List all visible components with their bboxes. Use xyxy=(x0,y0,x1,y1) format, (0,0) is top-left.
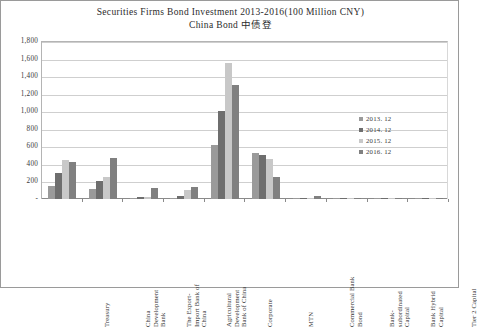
x-axis-category-label: MTN xyxy=(307,243,315,327)
bar[interactable] xyxy=(184,190,191,199)
legend-label: 2013. 12 xyxy=(366,115,391,122)
x-axis-tick xyxy=(448,199,449,202)
bar[interactable] xyxy=(62,160,69,199)
bar[interactable] xyxy=(314,196,321,199)
chart-title: Securities Firms Bond Investment 2013-20… xyxy=(1,6,460,19)
bar[interactable] xyxy=(69,162,76,199)
bar[interactable] xyxy=(252,153,259,199)
bar[interactable] xyxy=(395,198,402,199)
bar[interactable] xyxy=(211,145,218,199)
bar[interactable] xyxy=(48,186,55,199)
bar[interactable] xyxy=(300,198,307,199)
bar[interactable] xyxy=(388,198,395,199)
bar-group-bars xyxy=(246,42,287,199)
category-label-line: Bond xyxy=(355,243,363,327)
x-axis-category-label: Corporate xyxy=(266,243,274,327)
bar-group-bars xyxy=(164,42,205,199)
bar[interactable] xyxy=(340,198,347,199)
bar-group-bars xyxy=(286,42,327,199)
category-label-line: MTN xyxy=(307,243,315,327)
y-axis-tick-label: - xyxy=(35,195,38,203)
category-label-line: Corporate xyxy=(266,243,274,327)
bar-group xyxy=(123,42,164,199)
category-label-line: China xyxy=(144,243,152,327)
x-axis-category-label: The Export-Import Bank ofChina xyxy=(185,243,208,327)
bar[interactable] xyxy=(96,181,103,199)
bar[interactable] xyxy=(144,197,151,199)
category-label-line: Capital xyxy=(437,243,445,327)
legend-item[interactable]: 2016. 12 xyxy=(359,146,421,157)
category-label-line: The Export- xyxy=(185,243,193,327)
bar[interactable] xyxy=(415,198,422,199)
bar[interactable] xyxy=(293,198,300,199)
bar[interactable] xyxy=(273,177,280,199)
bar[interactable] xyxy=(137,197,144,199)
legend-swatch-icon xyxy=(359,117,363,121)
bar[interactable] xyxy=(177,196,184,200)
bar[interactable] xyxy=(55,173,62,199)
legend-swatch-icon xyxy=(359,128,363,132)
x-axis-category-labels: TreasuryChinaDevelopmentBankThe Export-I… xyxy=(41,201,448,287)
legend-label: 2014. 12 xyxy=(366,126,391,133)
bar-group-bars xyxy=(83,42,124,199)
x-axis-category-label: ChinaDevelopmentBank xyxy=(144,243,167,327)
x-axis-category-label: Tier 2 Capital xyxy=(470,243,477,327)
bar-group xyxy=(83,42,124,199)
bar[interactable] xyxy=(225,63,232,199)
bar[interactable] xyxy=(130,198,137,199)
bar[interactable] xyxy=(436,198,443,199)
x-axis-category-label: Bank-subordinatedCapital xyxy=(388,243,411,327)
bar[interactable] xyxy=(374,198,381,199)
bar[interactable] xyxy=(307,198,314,199)
bar[interactable] xyxy=(422,198,429,199)
bar-group-bars xyxy=(205,42,246,199)
bar[interactable] xyxy=(89,189,96,199)
legend-item[interactable]: 2015. 12 xyxy=(359,135,421,146)
category-label-line: Tier 2 Capital xyxy=(470,243,477,327)
bar[interactable] xyxy=(151,188,158,199)
y-axis-tick-label: 1,400 xyxy=(21,72,38,80)
bar[interactable] xyxy=(266,159,273,199)
bar[interactable] xyxy=(170,198,177,199)
category-label-line: Bank of China xyxy=(241,243,249,327)
x-axis-category-label: AgriculturalDevelopmentBank of China xyxy=(225,243,248,327)
category-label-line: Development xyxy=(152,243,160,327)
y-axis-tick-label: 200 xyxy=(27,177,38,185)
bar[interactable] xyxy=(218,111,225,199)
bar[interactable] xyxy=(110,158,117,199)
y-axis-tick-label: 1,800 xyxy=(21,37,38,45)
bar[interactable] xyxy=(347,198,354,199)
bar[interactable] xyxy=(333,198,340,199)
bar-group-bars xyxy=(123,42,164,199)
legend-item[interactable]: 2013. 12 xyxy=(359,113,421,124)
bar-group xyxy=(286,42,327,199)
chart-legend: 2013. 122014. 122015. 122016. 12 xyxy=(359,113,421,157)
category-label-line: China xyxy=(200,243,208,327)
category-label-line: Bank xyxy=(159,243,167,327)
category-label-line: Commercial Bank xyxy=(348,243,356,327)
bar[interactable] xyxy=(259,155,266,199)
bar[interactable] xyxy=(103,177,110,199)
bar[interactable] xyxy=(429,198,436,199)
bar[interactable] xyxy=(232,85,239,199)
legend-swatch-icon xyxy=(359,150,363,154)
legend-item[interactable]: 2014. 12 xyxy=(359,124,421,135)
bar[interactable] xyxy=(354,198,361,199)
y-axis-tick-label: 1,200 xyxy=(21,90,38,98)
bar-group xyxy=(42,42,83,199)
category-label-line: Capital xyxy=(403,243,411,327)
chart-title-block: Securities Firms Bond Investment 2013-20… xyxy=(1,6,460,32)
category-label-line: Bank Hybrid xyxy=(429,243,437,327)
bar-group xyxy=(246,42,287,199)
legend-swatch-icon xyxy=(359,139,363,143)
category-label-line: Treasury xyxy=(103,243,111,327)
legend-label: 2016. 12 xyxy=(366,148,391,155)
bar[interactable] xyxy=(381,198,388,199)
bar[interactable] xyxy=(191,187,198,199)
y-axis-tick-label: 600 xyxy=(27,142,38,150)
chart-subtitle: China Bond 中债登 xyxy=(1,19,460,32)
category-label-line: Import Bank of xyxy=(192,243,200,327)
bar-group-bars xyxy=(42,42,83,199)
x-axis-category-label: Treasury xyxy=(103,243,111,327)
